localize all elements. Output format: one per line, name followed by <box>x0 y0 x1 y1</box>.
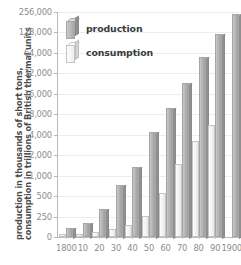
bar-production-30 <box>116 185 123 237</box>
y-axis-tick-label: 8,000 <box>29 109 52 119</box>
gridline <box>58 73 239 74</box>
bar-production-20 <box>99 209 106 237</box>
bar-production-10 <box>83 223 90 237</box>
y-axis-tick <box>54 94 58 95</box>
x-axis-tick-label: 1900 <box>221 243 241 253</box>
bar-consumption-20 <box>92 232 99 237</box>
bar-production-50 <box>149 132 156 237</box>
bar-consumption-30 <box>109 229 116 237</box>
x-axis-tick-label: 40 <box>127 243 137 253</box>
x-axis-tick-label: 80 <box>193 243 203 253</box>
y-axis-tick-label: 1,000 <box>29 171 52 181</box>
gridline <box>58 114 239 115</box>
y-axis-tick-label: 2,000 <box>29 150 52 160</box>
y-axis-title: production in thousands of short tons, c… <box>0 0 26 250</box>
gridline <box>58 94 239 95</box>
y-axis-tick <box>54 73 58 74</box>
legend-swatch-production-icon <box>66 18 75 39</box>
y-axis-tick-label: 32,000 <box>24 68 52 78</box>
x-axis-tick-label: 10 <box>78 243 88 253</box>
x-axis-tick-label: 60 <box>160 243 170 253</box>
x-axis-tick-label: 50 <box>144 243 154 253</box>
x-axis-tick-label: 20 <box>94 243 104 253</box>
y-axis-tick <box>54 217 58 218</box>
bar-consumption-70 <box>175 164 182 237</box>
y-axis-tick-label: 16,000 <box>24 89 52 99</box>
y-axis-tick-label: 128,000 <box>19 27 52 37</box>
y-axis-tick-label: 4,000 <box>29 130 52 140</box>
x-axis-tick-label: 70 <box>177 243 187 253</box>
y-axis-tick-label: 64,000 <box>24 48 52 58</box>
y-axis-tick <box>54 114 58 115</box>
bar-consumption-1800 <box>59 234 66 237</box>
x-axis-tick-label: 90 <box>210 243 220 253</box>
bar-consumption-90 <box>208 125 215 237</box>
gridline <box>58 12 239 13</box>
y-axis-tick <box>54 53 58 54</box>
y-axis-tick <box>54 237 58 238</box>
y-axis-tick-label: 0 <box>47 232 52 242</box>
y-axis-tick-label: 256,000 <box>19 7 52 17</box>
bar-production-80 <box>199 57 206 237</box>
y-axis-tick-label: 500 <box>37 191 52 201</box>
bar-production-60 <box>166 108 173 237</box>
bar-production-40 <box>132 167 139 237</box>
y-axis-tick <box>54 155 58 156</box>
y-axis-tick <box>54 196 58 197</box>
y-axis-tick <box>54 176 58 177</box>
y-axis-tick <box>54 32 58 33</box>
x-axis-tick-label: 30 <box>111 243 121 253</box>
bar-consumption-60 <box>159 193 166 237</box>
legend-label-production: production <box>86 23 143 34</box>
legend-swatch-consumption-icon <box>66 42 75 63</box>
y-axis-tick-label: 250 <box>37 212 52 222</box>
plot-area: 256,000128,00064,00032,00016,0008,0004,0… <box>57 12 239 238</box>
bar-consumption-50 <box>142 216 149 237</box>
y-axis-tick <box>54 135 58 136</box>
bar-production-1900 <box>232 14 239 237</box>
y-axis-tick <box>54 12 58 13</box>
chart-container: production in thousands of short tons, c… <box>0 0 241 265</box>
bar-consumption-40 <box>125 225 132 237</box>
bar-production-1800 <box>66 228 73 237</box>
x-axis-tick-label: 1800 <box>56 243 77 253</box>
bar-consumption-10 <box>76 234 83 237</box>
legend-label-consumption: consumption <box>86 47 153 58</box>
bar-consumption-80 <box>192 141 199 237</box>
bar-production-70 <box>182 83 189 237</box>
bar-production-90 <box>215 34 222 237</box>
